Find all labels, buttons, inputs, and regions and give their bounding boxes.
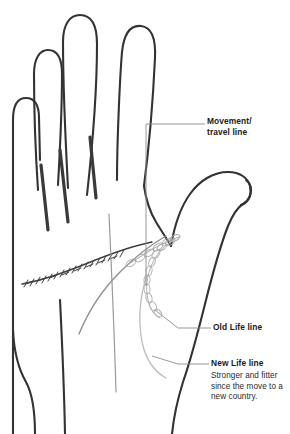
fate-line xyxy=(109,214,116,392)
label-movement-travel-line: Movement/ travel line xyxy=(207,116,279,138)
label-movement-travel-line-title: Movement/ travel line xyxy=(207,116,279,138)
heart-line xyxy=(22,242,152,287)
wrist-inner-line xyxy=(60,300,65,434)
label-new-life-line-caption: Stronger and fitter since the move to a … xyxy=(211,371,287,403)
leader-lines xyxy=(146,124,211,364)
label-new-life-line-title: New Life line xyxy=(211,358,287,369)
label-old-life-line-title: Old Life line xyxy=(213,322,262,333)
thumbnail xyxy=(241,180,251,205)
label-movement-line1: Movement/ xyxy=(207,116,252,126)
leader-new-life xyxy=(152,356,209,364)
label-old-life-line: Old Life line xyxy=(213,322,262,333)
index-finger-outline xyxy=(117,26,155,186)
little-finger-crease xyxy=(41,165,48,230)
label-movement-line2: travel line xyxy=(207,127,247,137)
palm-left-edge xyxy=(13,330,35,434)
palm-right-edge xyxy=(144,186,171,246)
label-new-life-line: New Life line Stronger and fitter since … xyxy=(211,358,287,403)
